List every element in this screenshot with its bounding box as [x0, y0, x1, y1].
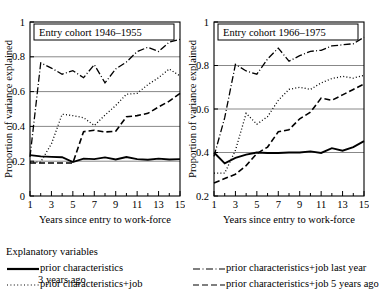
panel-title: Entry cohort 1946–1955 — [39, 27, 142, 38]
plot-right: 0.20.40.60.8113579111315Entry cohort 196… — [187, 17, 369, 225]
legend-swatch-dashed-icon — [192, 279, 226, 291]
ytick-label: 1 — [204, 17, 209, 28]
xtick-label: 1 — [27, 199, 32, 210]
xtick-label: 7 — [276, 199, 281, 210]
xtick-label: 11 — [132, 199, 142, 210]
series-line-dashed — [214, 84, 364, 183]
plot-left: 00.20.40.60.8113579111315Entry cohort 19… — [3, 17, 185, 225]
chart-svg-right: 0.20.40.60.8113579111315Entry cohort 196… — [184, 0, 369, 245]
legend: Explanatory variables prior characterist… — [0, 244, 369, 307]
xtick-label: 15 — [359, 199, 369, 210]
plot-frame — [30, 22, 180, 196]
legend-swatch-solid-icon — [6, 263, 40, 275]
legend-item-job-last-year: prior characteristics+job last year — [192, 262, 366, 275]
y-axis-title: Proportion of variance explained — [3, 39, 14, 178]
legend-label-job-3-years-cont: 3 years ago — [38, 274, 86, 285]
ytick-label: 0.2 — [196, 191, 209, 202]
y-axis-title: Proportion of variance explained — [187, 39, 198, 178]
legend-label-job-5-years: prior characteristics+job 5 years ago — [226, 278, 379, 290]
legend-item-job-5-years: prior characteristics+job 5 years ago — [192, 278, 379, 291]
xtick-label: 9 — [297, 199, 302, 210]
ytick-label: 0 — [20, 191, 25, 202]
xtick-label: 3 — [49, 199, 54, 210]
series-line-dashed — [30, 93, 180, 163]
chart-panel-right: 0.20.40.60.8113579111315Entry cohort 196… — [184, 0, 369, 245]
x-axis-title: Years since entry to work-force — [223, 214, 355, 225]
chart-panel-left: 00.20.40.60.8113579111315Entry cohort 19… — [0, 0, 185, 245]
ytick-label: 1 — [20, 17, 25, 28]
xtick-label: 9 — [113, 199, 118, 210]
xtick-label: 5 — [70, 199, 75, 210]
chart-panels: 00.20.40.60.8113579111315Entry cohort 19… — [0, 0, 369, 245]
legend-title: Explanatory variables — [6, 246, 98, 257]
legend-swatch-dotted-icon — [6, 279, 40, 291]
series-line-dashdot — [214, 37, 364, 156]
x-axis-title: Years since entry to work-force — [39, 214, 171, 225]
xtick-label: 3 — [233, 199, 238, 210]
xtick-label: 11 — [316, 199, 326, 210]
chart-svg-left: 00.20.40.60.8113579111315Entry cohort 19… — [0, 0, 185, 245]
xtick-label: 5 — [254, 199, 259, 210]
legend-swatch-dashdot-icon — [192, 263, 226, 275]
legend-label-job-last-year: prior characteristics+job last year — [226, 262, 366, 274]
xtick-label: 13 — [337, 199, 348, 210]
xtick-label: 7 — [92, 199, 97, 210]
panel-title: Entry cohort 1966–1975 — [223, 27, 326, 38]
xtick-label: 1 — [211, 199, 216, 210]
xtick-label: 13 — [153, 199, 164, 210]
legend-label-prior: prior characteristics — [40, 262, 123, 274]
